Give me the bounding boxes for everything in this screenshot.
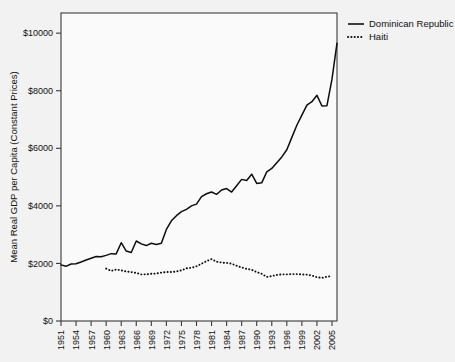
x-tick-label: 1966 xyxy=(132,330,142,350)
x-tick-label: 1987 xyxy=(237,330,247,350)
x-tick-label: 1984 xyxy=(222,330,232,350)
x-tick-label: 1981 xyxy=(207,330,217,350)
y-tick-label: $0 xyxy=(43,316,53,326)
y-axis-title: Mean Real GDP per Capita (Constant Price… xyxy=(8,71,19,263)
legend-label: Dominican Republic xyxy=(369,18,454,29)
y-tick-label: $4000 xyxy=(28,201,53,211)
x-tick-label: 1972 xyxy=(162,330,172,350)
x-tick-label: 1990 xyxy=(252,330,262,350)
x-tick-label: 1969 xyxy=(147,330,157,350)
x-tick-label: 1960 xyxy=(102,330,112,350)
legend-label: Haiti xyxy=(369,31,388,42)
plot-area xyxy=(61,13,337,321)
plot-frame xyxy=(61,13,337,321)
x-tick-label: 1999 xyxy=(297,330,307,350)
x-tick-label: 1996 xyxy=(282,330,292,350)
y-tick-label: $8000 xyxy=(28,86,53,96)
x-tick-label: 1978 xyxy=(192,330,202,350)
gdp-per-capita-line-chart: $0$2000$4000$6000$8000$10000 19511954195… xyxy=(0,0,455,362)
x-tick-label: 1963 xyxy=(117,330,127,350)
x-tick-label: 1954 xyxy=(71,330,81,350)
x-tick-label: 2002 xyxy=(312,330,322,350)
x-tick-label: 1957 xyxy=(87,330,97,350)
x-tick-label: 1993 xyxy=(267,330,277,350)
y-tick-label: $2000 xyxy=(28,259,53,269)
y-tick-label: $6000 xyxy=(28,143,53,153)
x-tick-label: 1951 xyxy=(56,330,66,350)
x-tick-label: 1975 xyxy=(177,330,187,350)
y-tick-label: $10000 xyxy=(23,28,53,38)
x-tick-label: 2005 xyxy=(327,330,337,350)
